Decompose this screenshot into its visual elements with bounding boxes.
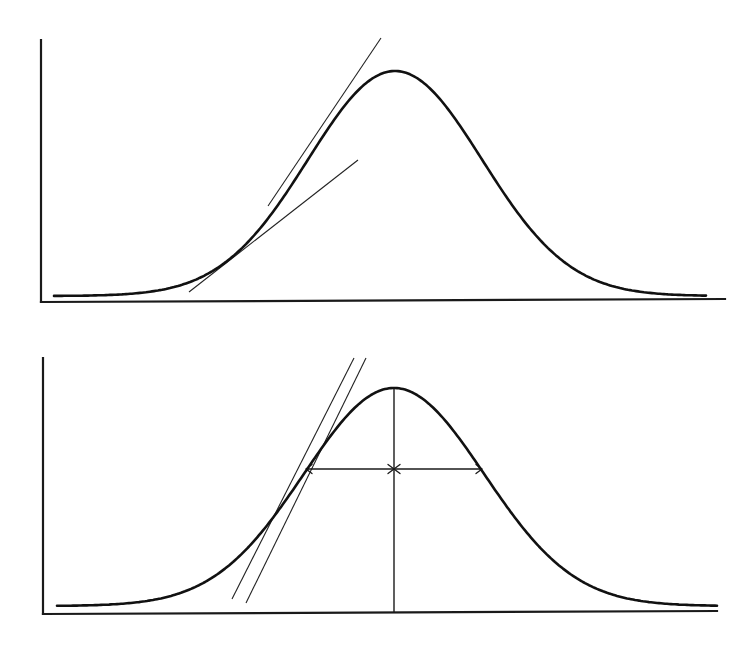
bottom-x-axis [43,611,717,614]
top-x-axis [41,299,725,302]
gaussian-peaks-figure [0,0,756,660]
bottom-tangent-line-b [246,358,366,603]
top-gaussian-curve [54,71,706,296]
bottom-tangent-line-a [232,358,354,599]
top-panel [41,38,725,302]
top-steep-tangent-line [268,38,381,206]
top-shallow-tangent-line [189,160,358,292]
bottom-panel [43,358,717,614]
bottom-gaussian-curve [57,388,717,606]
